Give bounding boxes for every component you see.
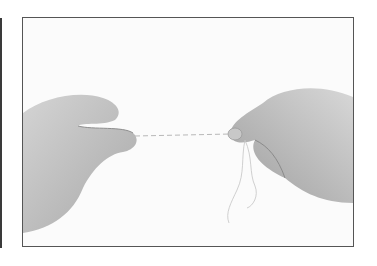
hands-floss-illustration — [23, 18, 354, 247]
left-hand — [23, 95, 137, 233]
page-edge-bar — [0, 18, 2, 248]
dental-floss — [135, 134, 256, 223]
photo-frame — [22, 17, 354, 247]
